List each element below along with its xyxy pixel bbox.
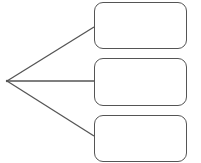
branch-box-middle (94, 58, 187, 106)
branch-box-top (94, 2, 187, 49)
connector-line-bottom (7, 81, 94, 136)
root-node (6, 80, 8, 82)
connector-line-top (7, 27, 94, 81)
branch-diagram (0, 0, 201, 163)
branch-box-bottom (94, 115, 187, 162)
